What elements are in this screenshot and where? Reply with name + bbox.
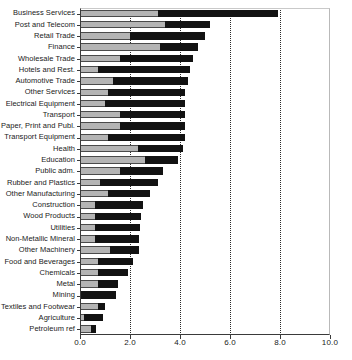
bar-row (80, 245, 330, 256)
category-label: Chemicals (0, 269, 75, 277)
category-label: Construction (0, 201, 75, 209)
stacked-bar (80, 134, 185, 141)
bar-row (80, 143, 330, 154)
stacked-bar (80, 269, 128, 276)
bar-row (80, 166, 330, 177)
bar-segment-2 (110, 246, 139, 253)
bar-row (80, 121, 330, 132)
bar-segment-1 (80, 134, 108, 141)
category-label: Health (0, 145, 75, 153)
stacked-bar (80, 235, 139, 242)
bar-row (80, 8, 330, 19)
category-label: Electrical Equipment (0, 100, 75, 108)
stacked-bar (80, 213, 141, 220)
bar-segment-2 (145, 156, 178, 163)
bar-segment-1 (80, 235, 95, 242)
bar-segment-1 (80, 100, 105, 107)
stacked-bar (80, 21, 210, 28)
category-label: Retail Trade (0, 32, 75, 40)
stacked-bar (80, 190, 150, 197)
bar-segment-1 (80, 224, 95, 231)
bar-segment-2 (95, 201, 143, 208)
bar-segment-2 (95, 235, 139, 242)
x-axis-tick-label: 10.0 (315, 338, 345, 347)
bar-segment-1 (80, 10, 158, 17)
bar-row (80, 42, 330, 53)
bar-segment-1 (80, 258, 98, 265)
bar-segment-1 (80, 122, 120, 129)
bar-row (80, 312, 330, 323)
bar-segment-2 (108, 89, 186, 96)
category-label: Wood Products (0, 212, 75, 220)
bar-segment-2 (91, 325, 96, 332)
stacked-bar (80, 280, 118, 287)
bar-row (80, 132, 330, 143)
bar-segment-2 (138, 145, 183, 152)
bar-row (80, 64, 330, 75)
bar-row (80, 301, 330, 312)
bar-row (80, 256, 330, 267)
stacked-bar (80, 325, 96, 332)
category-label: Hotels and Rest. (0, 66, 75, 74)
stacked-bar (80, 89, 185, 96)
bar-segment-1 (80, 190, 108, 197)
bar-segment-1 (80, 156, 145, 163)
category-label: Business Services (0, 9, 75, 17)
stacked-bar (80, 156, 178, 163)
category-label: Transport Equipment (0, 133, 75, 141)
category-axis-labels: Business ServicesPost and TelecomRetail … (0, 8, 77, 335)
category-label: Other Machinery (0, 246, 75, 254)
bar-segment-2 (98, 269, 128, 276)
bar-segment-2 (84, 314, 103, 321)
bar-row (80, 76, 330, 87)
bar-row (80, 234, 330, 245)
bar-row (80, 188, 330, 199)
bar-row (80, 267, 330, 278)
category-label: Wholesale Trade (0, 55, 75, 63)
bar-segment-1 (80, 21, 165, 28)
bar-segment-1 (80, 179, 100, 186)
bar-segment-1 (80, 43, 160, 50)
bar-segment-1 (80, 167, 120, 174)
bar-row (80, 31, 330, 42)
bar-segment-2 (98, 258, 133, 265)
bar-segment-2 (98, 303, 106, 310)
stacked-bar (80, 145, 183, 152)
bar-row (80, 155, 330, 166)
x-axis-tick-label: 4.0 (165, 338, 195, 347)
stacked-bar (80, 303, 105, 310)
bar-segment-2 (100, 179, 158, 186)
category-label: Transport (0, 111, 75, 119)
stacked-bar (80, 201, 143, 208)
bar-segment-1 (80, 325, 91, 332)
bar-row (80, 19, 330, 30)
x-axis-tick-label: 2.0 (115, 338, 145, 347)
stacked-bar (80, 224, 140, 231)
category-label: Metal (0, 280, 75, 288)
bar-segment-1 (80, 77, 113, 84)
bar-segment-1 (80, 201, 95, 208)
bar-segment-2 (120, 55, 193, 62)
bar-segment-2 (120, 122, 185, 129)
stacked-bar (80, 10, 278, 17)
bar-row (80, 222, 330, 233)
stacked-bar (80, 66, 190, 73)
bar-row (80, 98, 330, 109)
bar-segment-2 (165, 21, 210, 28)
bar-segment-2 (130, 32, 205, 39)
bar-segment-1 (80, 66, 98, 73)
stacked-bar (80, 77, 188, 84)
bar-segment-2 (98, 66, 191, 73)
bar-row (80, 279, 330, 290)
category-label: Textiles and Footwear (0, 303, 75, 311)
bar-segment-2 (158, 10, 278, 17)
bar-segment-1 (80, 32, 130, 39)
category-label: Education (0, 156, 75, 164)
x-axis-tick-label: 0.0 (65, 338, 95, 347)
category-label: Food and Beverages (0, 258, 75, 266)
category-label: Public adm. (0, 167, 75, 175)
bar-segment-2 (108, 190, 151, 197)
stacked-bar (80, 179, 158, 186)
stacked-bar (80, 111, 185, 118)
bar-row (80, 290, 330, 301)
